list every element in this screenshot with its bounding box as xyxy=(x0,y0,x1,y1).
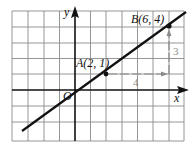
slope-guides xyxy=(108,29,172,77)
point-b-label: B(6, 4) xyxy=(131,12,164,26)
point-a-label: A(2, 1) xyxy=(75,56,109,70)
coordinate-plane-figure: y x O A(2, 1) B(6, 4) 4 3 xyxy=(0,0,192,147)
point-a xyxy=(104,72,109,77)
rise-arrow-icon xyxy=(167,29,172,36)
origin-label: O xyxy=(63,89,72,103)
graph-line xyxy=(22,12,186,131)
run-arrow-icon xyxy=(161,72,168,77)
point-b xyxy=(166,23,171,28)
run-label: 4 xyxy=(133,76,139,88)
rise-label: 3 xyxy=(173,45,179,57)
y-axis-label: y xyxy=(63,5,70,19)
x-axis-label: x xyxy=(173,91,180,105)
